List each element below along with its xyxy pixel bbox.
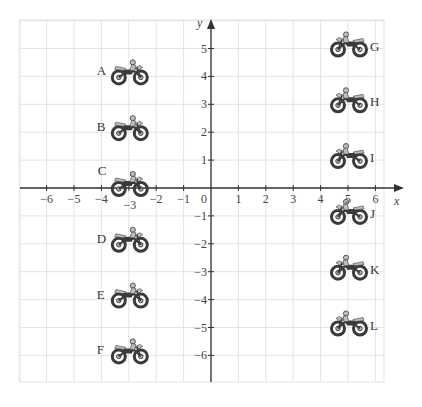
motorcycle-icon <box>112 283 147 307</box>
motorcycle-label-a: A <box>97 64 106 77</box>
y-axis-label: y <box>197 16 202 31</box>
motorcycle-label-b: B <box>97 120 106 133</box>
motorcycle-icon <box>332 32 367 56</box>
motorcycle-icon <box>112 227 147 251</box>
motorcycle-label-f: F <box>97 343 104 356</box>
motorcycle-icon <box>332 311 367 335</box>
x-tick-label: −4 <box>95 192 108 207</box>
x-tick-label: 4 <box>318 192 324 207</box>
motorcycle-label-k: K <box>370 263 379 276</box>
motorcycle-label-d: D <box>97 232 106 245</box>
y-tick-label: −3 <box>194 264 207 279</box>
x-tick-label: 5 <box>345 192 351 207</box>
x-tick-label: −1 <box>177 192 190 207</box>
x-axis-arrow-icon <box>394 184 404 192</box>
motorcycle-label-c: C <box>98 164 107 177</box>
motorcycle-icon <box>112 60 147 84</box>
x-tick-label: −5 <box>68 192 81 207</box>
motorcycle-icon <box>112 171 147 195</box>
motorcycle-icon <box>332 144 367 168</box>
y-tick-label: −6 <box>194 348 207 363</box>
x-axis-label: x <box>394 194 399 209</box>
y-tick-label: 1 <box>201 153 207 168</box>
motorcycle-icon <box>112 116 147 140</box>
x-tick-label: 6 <box>372 192 378 207</box>
motorcycle-label-j: J <box>370 207 375 220</box>
y-tick-label: 2 <box>201 125 207 140</box>
motorcycle-label-e: E <box>97 288 105 301</box>
x-tick-label: 0 <box>201 192 207 207</box>
x-tick-label: −6 <box>40 192 53 207</box>
y-tick-label: −4 <box>194 292 207 307</box>
y-tick-label: −2 <box>194 236 207 251</box>
x-tick-label: −3 <box>123 198 136 213</box>
y-tick-label: 5 <box>201 41 207 56</box>
motorcycle-label-g: G <box>370 40 379 53</box>
motorcycle-icon <box>332 255 367 279</box>
motorcycle-icon <box>332 88 367 112</box>
x-tick-label: 3 <box>290 192 296 207</box>
y-tick-label: −1 <box>194 208 207 223</box>
motorcycle-label-h: H <box>370 95 379 108</box>
motorcycle-label-l: L <box>370 319 378 332</box>
x-tick-label: −2 <box>150 192 163 207</box>
x-tick-label: 2 <box>263 192 269 207</box>
y-tick-label: 3 <box>201 97 207 112</box>
y-tick-label: −5 <box>194 320 207 335</box>
motorcycle-icon <box>112 339 147 363</box>
motorcycle-label-i: I <box>370 151 374 164</box>
coordinate-grid <box>0 0 422 407</box>
x-tick-label: 1 <box>235 192 241 207</box>
y-tick-label: 4 <box>201 69 207 84</box>
